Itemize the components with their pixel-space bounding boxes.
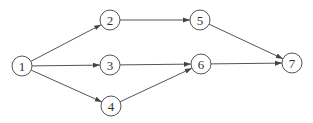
edge-3-6	[120, 64, 191, 65]
node-label: 5	[197, 13, 204, 28]
edge-1-3	[32, 65, 100, 66]
edge-6-7	[211, 63, 282, 64]
node-label: 1	[19, 59, 26, 74]
node-5: 5	[190, 10, 210, 30]
node-7: 7	[282, 53, 302, 73]
node-3: 3	[100, 55, 120, 75]
node-label: 7	[289, 56, 296, 71]
node-2: 2	[100, 10, 120, 30]
node-label: 6	[198, 57, 205, 72]
edge-1-2	[31, 25, 101, 62]
node-6: 6	[191, 54, 211, 74]
network-diagram: 1234567	[0, 0, 313, 123]
diagram-svg: 1234567	[0, 0, 313, 123]
node-label: 4	[108, 99, 115, 114]
edge-1-4	[31, 70, 102, 102]
node-label: 2	[107, 13, 114, 28]
edge-5-7	[209, 24, 283, 59]
node-4: 4	[101, 96, 121, 116]
node-1: 1	[12, 56, 32, 76]
edge-4-6	[120, 68, 192, 102]
edges-group	[31, 20, 283, 102]
node-label: 3	[107, 58, 114, 73]
